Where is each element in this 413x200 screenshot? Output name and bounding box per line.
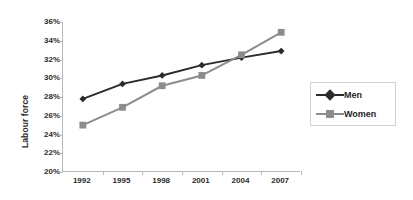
x-axis-tick-label: 2007 bbox=[260, 176, 300, 186]
x-axis-tick bbox=[261, 171, 262, 175]
y-axis-tick-label: 36% bbox=[30, 18, 60, 26]
legend-swatch-women bbox=[316, 108, 344, 120]
y-axis-tick bbox=[59, 135, 63, 136]
x-axis-tick-label: 2004 bbox=[221, 176, 261, 186]
data-point-diamond bbox=[79, 95, 86, 102]
y-axis-tick bbox=[59, 60, 63, 61]
data-point-square bbox=[79, 122, 86, 129]
plot-area bbox=[62, 22, 300, 172]
x-axis-tick bbox=[182, 171, 183, 175]
series-men bbox=[79, 48, 284, 103]
series-line bbox=[83, 32, 281, 125]
y-axis-tick-label: 26% bbox=[30, 112, 60, 120]
y-axis-tick bbox=[59, 41, 63, 42]
y-axis-tick bbox=[59, 78, 63, 79]
x-axis-tick-label: 1995 bbox=[102, 176, 142, 186]
data-point-diamond bbox=[159, 72, 166, 79]
data-point-diamond bbox=[119, 80, 126, 87]
chart-legend: Men Women bbox=[310, 82, 396, 126]
x-axis-tick bbox=[142, 171, 143, 175]
y-axis-tick bbox=[59, 172, 63, 173]
y-axis-tick-label: 20% bbox=[30, 168, 60, 176]
y-axis-tick-label: 22% bbox=[30, 149, 60, 157]
y-axis-tick-label: 32% bbox=[30, 56, 60, 64]
data-point-diamond bbox=[198, 62, 205, 69]
square-marker-icon bbox=[326, 110, 334, 118]
data-point-diamond bbox=[278, 48, 285, 55]
x-axis-tick-label: 2001 bbox=[181, 176, 221, 186]
x-axis-tick-label: 1992 bbox=[62, 176, 102, 186]
x-axis-tick bbox=[222, 171, 223, 175]
y-axis-tick bbox=[59, 153, 63, 154]
y-axis-tick bbox=[59, 22, 63, 23]
series-women bbox=[79, 29, 284, 129]
y-axis-tick-labels: 20%22%24%26%28%30%32%34%36% bbox=[30, 14, 60, 178]
y-axis-tick bbox=[59, 116, 63, 117]
series-line bbox=[83, 51, 281, 99]
legend-label-men: Men bbox=[344, 89, 362, 101]
data-point-square bbox=[198, 72, 205, 79]
y-axis-tick-label: 30% bbox=[30, 74, 60, 82]
x-axis-tick-labels: 199219951998200120042007 bbox=[62, 176, 300, 190]
diamond-marker-icon bbox=[324, 89, 335, 100]
data-point-square bbox=[159, 82, 166, 89]
y-axis-tick bbox=[59, 97, 63, 98]
legend-label-women: Women bbox=[344, 108, 376, 120]
line-chart: Labour force 20%22%24%26%28%30%32%34%36%… bbox=[0, 0, 413, 200]
data-point-square bbox=[119, 104, 126, 111]
series-svg bbox=[63, 22, 301, 172]
y-axis-tick-label: 24% bbox=[30, 131, 60, 139]
y-axis-tick-label: 34% bbox=[30, 37, 60, 45]
data-point-square bbox=[278, 29, 285, 36]
legend-swatch-men bbox=[316, 89, 344, 101]
y-axis-tick-label: 28% bbox=[30, 93, 60, 101]
data-point-square bbox=[238, 51, 245, 58]
legend-item-men[interactable]: Men bbox=[316, 88, 362, 102]
legend-item-women[interactable]: Women bbox=[316, 107, 376, 121]
x-axis-tick bbox=[301, 171, 302, 175]
x-axis-tick-label: 1998 bbox=[141, 176, 181, 186]
x-axis-tick bbox=[103, 171, 104, 175]
